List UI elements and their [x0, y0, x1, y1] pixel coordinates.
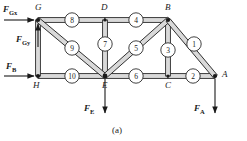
- member-badge-label: 6: [134, 72, 138, 81]
- force-label-FGy: FGy: [16, 35, 30, 46]
- member-badge-label: 10: [68, 72, 76, 81]
- joint-E: [103, 74, 108, 79]
- member-badge-label: 2: [191, 72, 195, 81]
- member-badge-4: 4: [129, 13, 143, 27]
- joint-B: [166, 18, 170, 22]
- member-badge-9: 9: [65, 41, 79, 55]
- member-badge-2: 2: [186, 69, 200, 83]
- member-badge-label: 8: [70, 16, 74, 25]
- joint-G: [36, 18, 40, 22]
- member-badge-label: 5: [134, 44, 138, 53]
- member-number-badges: 8 4 9 7 5 3 1: [65, 13, 201, 83]
- figure-caption: (a): [112, 126, 122, 135]
- member-badge-7: 7: [98, 37, 112, 51]
- force-subscript: E: [90, 108, 94, 115]
- member-badge-label: 4: [134, 16, 138, 25]
- node-label-B: B: [165, 3, 171, 12]
- node-label-A: A: [222, 70, 228, 79]
- joint-H: [36, 74, 40, 78]
- force-label-FGx: FGx: [3, 5, 17, 16]
- node-label-D: D: [101, 3, 108, 12]
- joint-D: [103, 18, 106, 21]
- force-subscript: Gy: [22, 39, 30, 46]
- force-label-FA: FA: [194, 104, 205, 115]
- joint-C: [166, 74, 169, 77]
- member-badge-label: 1: [192, 40, 196, 49]
- node-label-G: G: [35, 3, 42, 12]
- force-label-FB: FB: [6, 62, 16, 73]
- node-label-H: H: [33, 81, 40, 90]
- member-badge-label: 3: [166, 46, 170, 55]
- node-label-E: E: [102, 81, 108, 90]
- truss-diagram-canvas: 8 4 9 7 5 3 1: [0, 0, 247, 141]
- force-label-FE: FE: [84, 104, 94, 115]
- joint-A: [213, 74, 217, 78]
- truss-figure: 8 4 9 7 5 3 1: [0, 0, 247, 141]
- member-badge-label: 7: [103, 40, 107, 49]
- force-subscript: A: [200, 108, 205, 115]
- member-badge-6: 6: [129, 69, 143, 83]
- member-badge-10: 10: [65, 69, 79, 83]
- member-badge-1: 1: [187, 37, 201, 51]
- force-subscript: B: [12, 66, 16, 73]
- member-badge-3: 3: [161, 43, 175, 57]
- member-badge-8: 8: [65, 13, 79, 27]
- member-badge-5: 5: [129, 41, 143, 55]
- member-badge-label: 9: [70, 44, 74, 53]
- node-label-C: C: [165, 81, 171, 90]
- force-subscript: Gx: [9, 9, 17, 16]
